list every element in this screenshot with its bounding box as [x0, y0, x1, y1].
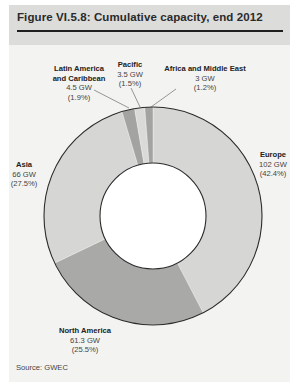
label-asia: Asia 66 GW (27.5%) — [4, 160, 44, 189]
label-latin-america: Latin America and Caribbean 4.5 GW (1.9%… — [47, 64, 111, 102]
donut-chart — [0, 0, 299, 387]
leader-line-pacific — [131, 88, 140, 107]
donut-hole — [100, 163, 206, 269]
label-north-america: North America 61.3 GW (25.5%) — [50, 326, 120, 355]
label-africa-middle-east: Africa and Middle East 3 GW (1.2%) — [155, 64, 255, 93]
source-note: Source: GWEC — [16, 363, 68, 372]
label-europe: Europe 102 GW (42.4%) — [253, 150, 293, 179]
label-pacific: Pacific 3.5 GW (1.5%) — [105, 60, 155, 89]
